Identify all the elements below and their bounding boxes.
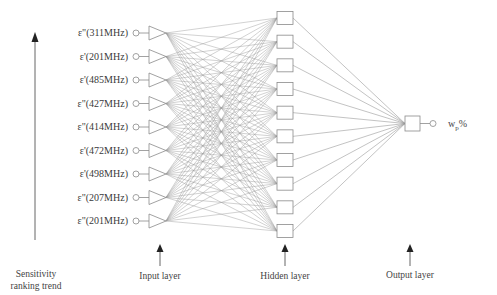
input-node	[133, 120, 166, 134]
input-node	[133, 26, 166, 40]
input-label: ε"(427MHz)	[48, 98, 128, 110]
input-node	[133, 50, 166, 64]
input-label: ε"(414MHz)	[48, 121, 128, 133]
hidden-node	[277, 83, 293, 96]
input-node	[133, 73, 166, 87]
hidden-node	[277, 225, 293, 238]
input-label: ε'(498MHz)	[48, 168, 128, 180]
hidden-node	[277, 106, 293, 119]
output-layer-node	[405, 116, 436, 131]
input-node	[133, 167, 166, 181]
sensitivity-arrow-icon	[32, 32, 39, 240]
input-node	[133, 191, 166, 205]
hidden-layer-caption: Hidden layer	[245, 270, 325, 282]
sensitivity-caption-line1: Sensitivity	[0, 268, 72, 280]
hidden-node	[277, 59, 293, 72]
hidden-node	[277, 154, 293, 167]
hidden-node	[277, 35, 293, 48]
hidden-node	[277, 177, 293, 190]
input-hidden-connections	[166, 18, 277, 231]
input-layer-caption: Input layer	[125, 270, 195, 282]
input-layer-nodes	[133, 26, 166, 228]
hidden-layer-arrow-icon	[282, 244, 289, 266]
input-layer-arrow-icon	[157, 244, 164, 266]
hidden-layer-nodes	[277, 12, 293, 238]
hidden-node	[277, 130, 293, 143]
input-label: ε'(485MHz)	[48, 74, 128, 86]
output-label: wp%	[448, 118, 467, 132]
sensitivity-caption-line2: ranking trend	[0, 280, 72, 292]
hidden-node	[277, 201, 293, 214]
output-layer-arrow-icon	[407, 244, 414, 266]
output-layer-caption: Output layer	[370, 269, 450, 281]
sensitivity-caption: Sensitivity ranking trend	[0, 268, 72, 292]
input-node	[133, 144, 166, 158]
output-label-suffix: %	[459, 118, 467, 129]
input-label: ε'(472MHz)	[48, 145, 128, 157]
input-label: ε"(207MHz)	[48, 192, 128, 204]
input-label: ε"(311MHz)	[48, 27, 128, 39]
input-label: ε'(201MHz)	[48, 51, 128, 63]
input-label: ε"(201MHz)	[48, 215, 128, 227]
input-node	[133, 97, 166, 111]
input-node	[133, 214, 166, 228]
hidden-output-connections	[293, 18, 405, 231]
hidden-node	[277, 12, 293, 25]
